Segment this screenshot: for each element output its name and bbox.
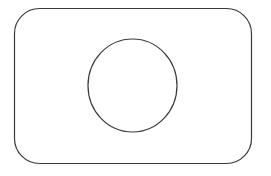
circle-outline	[88, 39, 177, 132]
rounded-rectangle-outline	[15, 9, 252, 164]
diagram-canvas	[0, 0, 271, 176]
